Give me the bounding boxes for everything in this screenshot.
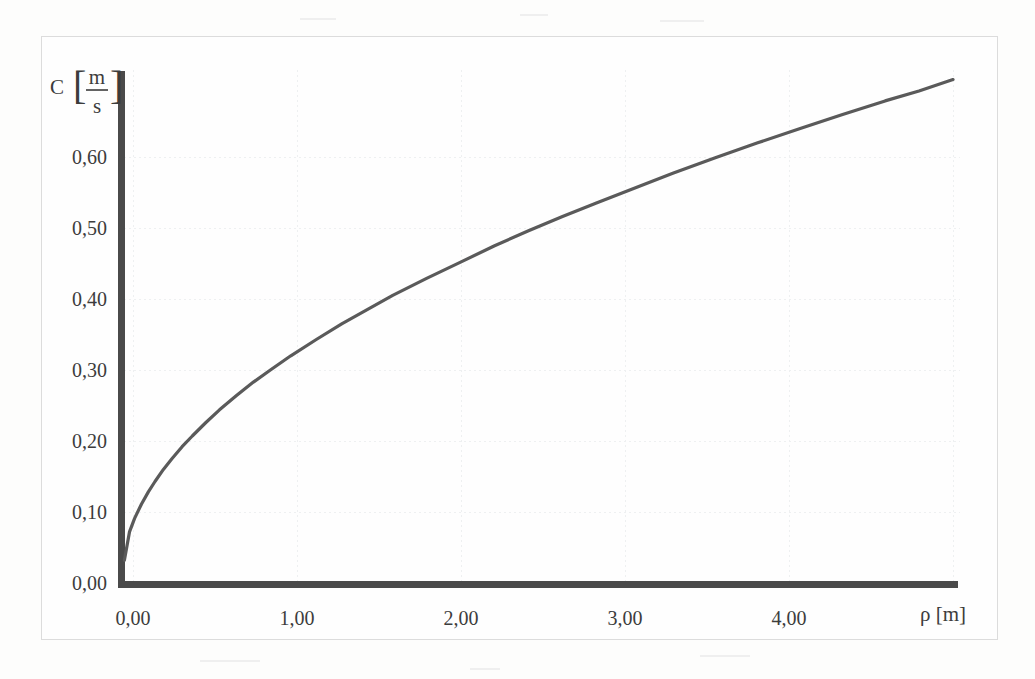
- y-tick-label-6: 0,60: [72, 146, 107, 168]
- y-axis-title-group: C [ m s ]: [50, 63, 123, 118]
- x-tick-label-0: 0,00: [116, 607, 151, 629]
- x-tick-label-3: 3,00: [608, 607, 643, 629]
- y-axis-symbol: C: [50, 75, 64, 99]
- data-curve-c-of-rho: [124, 80, 953, 561]
- x-tick-label-2: 2,00: [444, 607, 479, 629]
- y-tick-labels: 0,00 0,10 0,20 0,30 0,40 0,50 0,60: [72, 146, 107, 594]
- plot-area: 0,00 0,10 0,20 0,30 0,40 0,50 0,60 0,00 …: [0, 0, 1035, 679]
- x-tick-label-1: 1,00: [280, 607, 315, 629]
- y-tick-label-2: 0,20: [72, 430, 107, 452]
- y-tick-label-5: 0,50: [72, 217, 107, 239]
- y-tick-label-1: 0,10: [72, 501, 107, 523]
- y-unit-numerator: m: [89, 65, 105, 89]
- x-axis-title: ρ [m]: [920, 602, 966, 626]
- y-tick-label-3: 0,30: [72, 359, 107, 381]
- x-tick-label-4: 4,00: [772, 607, 807, 629]
- y-tick-label-4: 0,40: [72, 288, 107, 310]
- y-unit-bracket-open: [: [73, 63, 86, 108]
- y-unit-denominator: s: [93, 94, 101, 118]
- chart-svg: 0,00 0,10 0,20 0,30 0,40 0,50 0,60 0,00 …: [0, 0, 1035, 679]
- x-tick-labels: 0,00 1,00 2,00 3,00 4,00: [116, 607, 807, 629]
- grid-lines: [119, 70, 960, 583]
- y-unit-bracket-close: ]: [110, 63, 123, 108]
- y-tick-label-0: 0,00: [72, 572, 107, 594]
- figure-container: 0,00 0,10 0,20 0,30 0,40 0,50 0,60 0,00 …: [0, 0, 1035, 679]
